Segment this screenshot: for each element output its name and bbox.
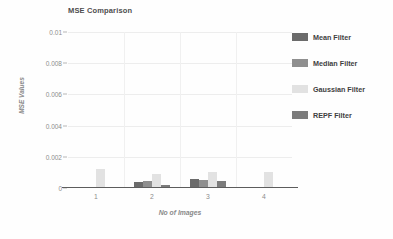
bar-group: 1: [68, 32, 124, 188]
legend-label: Median Filter: [313, 59, 357, 68]
x-tick-label: 3: [206, 193, 210, 200]
chart-title: MSE Comparison: [68, 6, 132, 15]
legend-swatch: [292, 33, 308, 41]
legend-swatch: [292, 111, 308, 119]
bar-group: 3: [180, 32, 236, 188]
y-tick-label: 0.004: [46, 122, 62, 129]
x-axis-title: No of Images: [68, 209, 292, 216]
legend-swatch: [292, 85, 308, 93]
x-axis-line: [62, 187, 298, 188]
legend-item[interactable]: Gaussian Filter: [292, 76, 390, 102]
y-tick-mark: [63, 94, 67, 95]
chart-figure: MSE Comparison MSE Values 00.0020.0040.0…: [0, 0, 393, 239]
x-tick-label: 4: [262, 193, 266, 200]
y-tick-label: 0.002: [46, 153, 62, 160]
x-tick-label: 1: [94, 193, 98, 200]
x-tick-label: 2: [150, 193, 154, 200]
bar: [208, 172, 217, 188]
legend-label: REPF Filter: [313, 111, 352, 120]
y-tick-mark: [63, 156, 67, 157]
legend-item[interactable]: Median Filter: [292, 50, 390, 76]
bar: [96, 169, 105, 188]
bar: [264, 172, 273, 188]
bar-group: 2: [124, 32, 180, 188]
legend-swatch: [292, 59, 308, 67]
legend-item[interactable]: REPF Filter: [292, 102, 390, 128]
y-tick-mark: [63, 63, 67, 64]
y-tick-label: 0.006: [46, 91, 62, 98]
y-tick-label: 0.008: [46, 60, 62, 67]
legend-label: Mean Filter: [313, 33, 351, 42]
legend-item[interactable]: Mean Filter: [292, 24, 390, 50]
y-tick-label: 0: [58, 185, 62, 192]
bar-group: 4: [236, 32, 292, 188]
y-tick-label: 0.01: [49, 29, 62, 36]
plot-area: 00.0020.0040.0060.0080.01 1234: [68, 32, 292, 188]
y-tick-mark: [63, 32, 67, 33]
chart-legend: Mean FilterMedian FilterGaussian FilterR…: [292, 24, 390, 128]
y-tick-mark: [63, 125, 67, 126]
y-axis-title: MSE Values: [18, 61, 25, 131]
legend-label: Gaussian Filter: [313, 85, 365, 94]
